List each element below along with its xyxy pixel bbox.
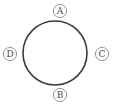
label-b-group: B <box>53 88 66 101</box>
figure-container: A B C D <box>0 0 115 106</box>
label-d-group: D <box>3 47 16 60</box>
label-a-group: A <box>53 4 66 17</box>
label-c-text: C <box>99 49 106 59</box>
label-d-text: D <box>6 49 13 59</box>
circle-diagram: A B C D <box>0 0 115 106</box>
label-c-group: C <box>95 47 108 60</box>
label-a-text: A <box>56 6 64 16</box>
label-b-text: B <box>57 90 64 100</box>
